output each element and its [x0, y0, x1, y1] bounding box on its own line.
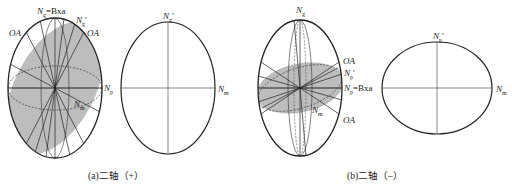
- label-oa-left: OA: [9, 29, 21, 38]
- section-b-right: [382, 42, 492, 134]
- label-oa-top: OA: [343, 57, 355, 66]
- section-a-right: [121, 22, 215, 154]
- label-nm-right: Nm: [218, 85, 229, 96]
- label-np: Np: [104, 84, 113, 95]
- label-oa-bottom: OA: [343, 116, 355, 125]
- label-nm-right-b: Nm: [496, 85, 507, 96]
- label-ng-bxa: Ng=Bxa: [37, 7, 66, 18]
- label-np-prime-right: Np′: [433, 32, 444, 43]
- label-ng-prime-right: Ng′: [163, 12, 174, 23]
- label-nm: Nm: [74, 100, 85, 111]
- label-nm-b: Nm: [312, 106, 323, 117]
- caption-a: (a)二轴（+）: [88, 168, 144, 182]
- caption-b: (b)二轴（–）: [347, 168, 403, 182]
- optic-axis-diagram: [0, 0, 512, 184]
- label-oa-right: OA: [87, 29, 99, 38]
- label-np-prime: Np′: [344, 69, 355, 80]
- label-np-bxa: Np=Bxa: [344, 84, 373, 95]
- label-ng-prime: Ng′: [76, 16, 87, 27]
- indicatrix-b-main: [252, 20, 348, 156]
- label-ng: Ng: [296, 6, 305, 17]
